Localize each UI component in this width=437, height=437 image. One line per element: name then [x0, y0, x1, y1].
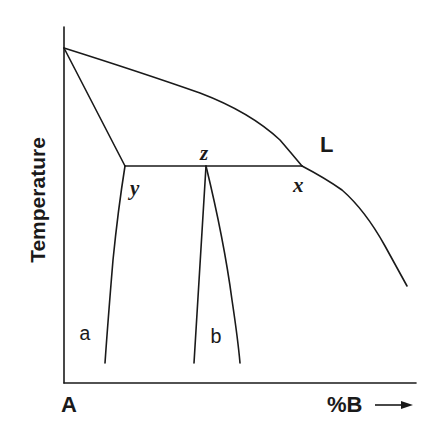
phase-diagram [0, 0, 437, 437]
label-point-x: x [293, 175, 304, 196]
x-axis-arrow-icon [375, 401, 413, 409]
solidus-line-a [64, 48, 125, 166]
liquidus-upper-curve [64, 48, 302, 166]
label-point-y: y [130, 178, 139, 199]
label-liquid: L [320, 134, 333, 156]
x-axis-origin-label: A [61, 394, 77, 416]
label-point-z: z [200, 143, 208, 164]
phase-b-left-boundary [194, 166, 206, 363]
label-phase-a: a [79, 325, 91, 345]
y-axis-label-text: Temperature [26, 137, 50, 263]
liquidus-lower-curve [302, 166, 407, 286]
x-axis-label: %B [327, 394, 362, 416]
solvus-a [105, 166, 125, 363]
label-phase-b: b [210, 328, 222, 348]
